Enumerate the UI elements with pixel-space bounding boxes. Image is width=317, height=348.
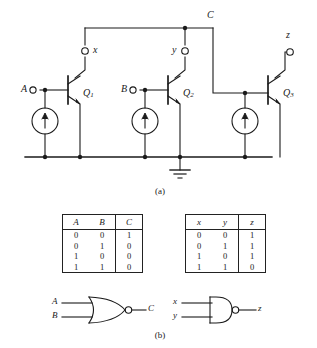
nand-gate-input-y-label: y [173, 311, 177, 320]
nand-gate-input-x-label: x [173, 297, 177, 306]
nand-bubble [232, 307, 238, 313]
nor-gate-input-a-label: A [52, 297, 58, 306]
nor-body [89, 297, 125, 323]
nand-body [210, 297, 232, 323]
caption-b: (b) [130, 330, 190, 340]
nor-gate-output-label: C [148, 304, 154, 313]
nor-gate-input-b-label: B [52, 311, 58, 320]
nand-gate-output-label: z [258, 304, 262, 313]
nor-bubble [125, 307, 131, 313]
figure-panel-b-gates [0, 0, 317, 348]
nor-back-curve [89, 297, 94, 323]
